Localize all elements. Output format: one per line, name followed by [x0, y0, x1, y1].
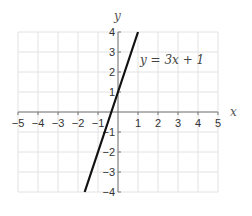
x-tick-label: 1	[135, 117, 141, 129]
y-tick-label: 3	[109, 46, 115, 58]
coordinate-plane: −5−4−3−2−112345 4321−1−2−3−4 x y y = 3x …	[0, 0, 252, 216]
x-tick-label: −3	[52, 117, 65, 129]
x-tick-label: 4	[195, 117, 201, 129]
x-tick-label: 2	[155, 117, 161, 129]
equation-label: y = 3x + 1	[139, 53, 204, 67]
x-tick-labels: −5−4−3−2−112345	[12, 112, 221, 129]
y-tick-label: 4	[109, 26, 115, 38]
y-tick-label: −3	[102, 166, 115, 178]
y-tick-label: 1	[109, 86, 115, 98]
x-tick-label: 3	[175, 117, 181, 129]
y-tick-label: −2	[102, 146, 115, 158]
x-tick-label: −2	[72, 117, 85, 129]
x-tick-label: −5	[12, 117, 25, 129]
x-tick-label: 5	[215, 117, 221, 129]
x-tick-label: −4	[32, 117, 45, 129]
x-axis-label: x	[230, 105, 237, 119]
y-tick-label: 2	[109, 66, 115, 78]
y-axis-label: y	[113, 9, 121, 23]
y-tick-label: −4	[102, 186, 115, 198]
